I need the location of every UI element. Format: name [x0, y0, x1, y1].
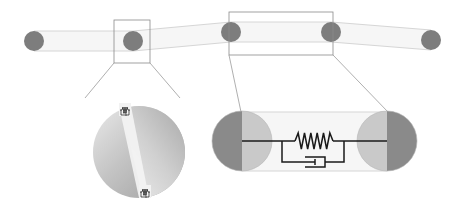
bonded-particle-diagram [0, 0, 461, 208]
sphere-left-half [212, 111, 242, 171]
particle-node [321, 22, 341, 42]
particle-node [421, 30, 441, 50]
zoom-connector-line [150, 63, 180, 98]
bond-cylinder [133, 22, 231, 51]
zoom-connector-line [229, 55, 241, 112]
spring-dashpot-icon [119, 103, 131, 116]
kelvin-voigt-bond-zoom [212, 111, 417, 171]
particle-node [24, 31, 44, 51]
contact-disc-zoom [93, 103, 185, 198]
particle-node [123, 31, 143, 51]
bond-cylinder [34, 31, 133, 51]
zoom-connector-line [85, 63, 114, 98]
zoom-connector-line [333, 55, 388, 112]
particle-node [221, 22, 241, 42]
bond-cylinder [231, 22, 331, 42]
spring-dashpot-icon [139, 185, 151, 198]
bond-cylinder [331, 22, 431, 50]
sphere-right-half [387, 111, 417, 171]
